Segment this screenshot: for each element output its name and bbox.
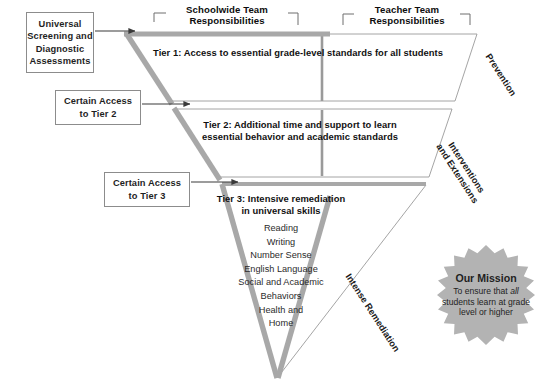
tier3-skill-item: Number Sense [196, 249, 366, 263]
tier3-skills-list: Reading Writing Number Sense English Lan… [196, 222, 366, 331]
bracket-label-schoolwide-team: Schoolwide Team Responsibilities [168, 4, 286, 27]
tier3-skill-item: Reading [196, 222, 366, 236]
box-universal-label: Universal Screening and Diagnostic Asses… [27, 18, 92, 68]
tier3-label: Tier 3: Intensive remediation in univers… [196, 193, 366, 217]
mission-body-after: students learn at grade level or higher [442, 297, 530, 318]
diagram-canvas: Universal Screening and Diagnostic Asses… [0, 0, 551, 392]
tier3-skill-item: Writing [196, 236, 366, 250]
tier3-skill-item: Health and [196, 304, 366, 318]
mission-body-emphasis: all [510, 286, 519, 296]
box-universal-screening[interactable]: Universal Screening and Diagnostic Asses… [26, 12, 94, 73]
mission-callout: Our Mission To ensure that all students … [426, 246, 546, 344]
box-certain-access-tier-2[interactable]: Certain Access to Tier 2 [55, 90, 141, 125]
mission-body-before: To ensure that [453, 286, 510, 296]
tier2-label: Tier 2: Additional time and support to l… [174, 119, 426, 144]
tier1-label: Tier 1: Access to essential grade-level … [148, 47, 448, 59]
mission-body: To ensure that all students learn at gra… [436, 286, 536, 318]
tier3-skill-item: English Language [196, 263, 366, 277]
mission-text-block: Our Mission To ensure that all students … [426, 246, 546, 344]
tier3-skill-item: Social and Academic [196, 276, 366, 290]
tier3-skill-item: Behaviors [196, 290, 366, 304]
mission-title: Our Mission [455, 272, 516, 285]
bracket-label-teacher-team: Teacher Team Responsibilities [352, 4, 462, 27]
box-tier2-label: Certain Access to Tier 2 [64, 95, 132, 120]
box-tier3-label: Certain Access to Tier 3 [113, 177, 181, 202]
box-certain-access-tier-3[interactable]: Certain Access to Tier 3 [104, 172, 190, 207]
tier1-band-outline [127, 34, 477, 101]
tier3-skill-item: Home [196, 317, 366, 331]
